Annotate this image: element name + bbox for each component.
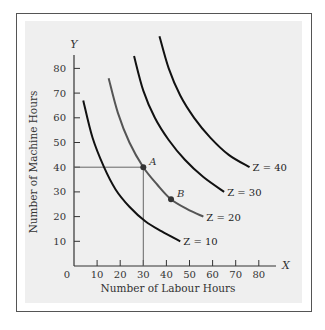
y-tick-label: 80: [53, 63, 66, 74]
x-tick-label: 80: [252, 269, 265, 280]
isoquant-z10: [83, 101, 180, 242]
x-tick-label: 50: [183, 269, 196, 280]
y-tick-label: 10: [53, 236, 66, 247]
y-tick-label: 50: [53, 137, 66, 148]
x-axis-title: Number of Labour Hours: [101, 282, 236, 294]
x-axis-letter: X: [281, 259, 291, 272]
x-tick-label: 60: [206, 269, 219, 280]
isoquant-z20: [109, 78, 204, 216]
x-tick-label: 70: [229, 269, 242, 280]
point-a: [140, 164, 146, 170]
isoquant-chart: 102030405060708010203040506070800YXNumbe…: [0, 0, 325, 330]
curve-label: Z = 30: [227, 187, 261, 198]
labels: Z = 10Z = 20Z = 30Z = 40AB: [140, 156, 287, 247]
y-tick-label: 40: [53, 162, 66, 173]
isoquant-z40: [159, 36, 249, 167]
x-tick-label: 20: [114, 269, 127, 280]
y-tick-label: 70: [53, 88, 66, 99]
y-tick-label: 60: [53, 112, 66, 123]
curve-label: Z = 40: [253, 162, 287, 173]
point-b: [168, 196, 174, 202]
point-label: A: [148, 156, 156, 167]
y-tick-label: 30: [53, 186, 66, 197]
x-tick-label: 10: [91, 269, 104, 280]
x-tick-label: 30: [137, 269, 150, 280]
y-tick-label: 20: [53, 211, 66, 222]
curve-label: Z = 20: [206, 212, 240, 223]
y-axis-letter: Y: [70, 38, 79, 51]
point-label: B: [176, 188, 184, 199]
y-axis-title: Number of Machine Hours: [27, 91, 39, 234]
origin-label: 0: [64, 269, 70, 280]
x-tick-label: 40: [160, 269, 173, 280]
axes: 102030405060708010203040506070800YXNumbe…: [27, 38, 291, 294]
curve-label: Z = 10: [183, 236, 217, 247]
guide-lines: [74, 167, 143, 266]
isoquant-curves: [83, 36, 249, 241]
